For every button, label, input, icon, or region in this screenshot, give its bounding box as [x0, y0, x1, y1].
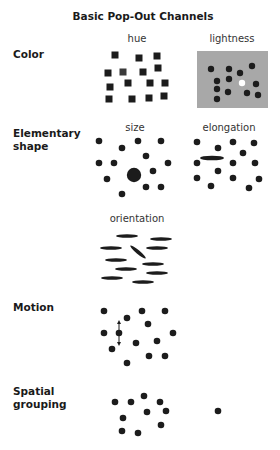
dot-mark — [135, 430, 142, 437]
square-mark — [129, 96, 136, 103]
square-mark — [161, 93, 168, 100]
dot-mark — [146, 353, 153, 360]
square-mark — [146, 95, 153, 102]
bar-mark — [142, 262, 164, 266]
lightness-background — [197, 51, 268, 108]
dot-mark — [214, 86, 220, 92]
dot-mark — [119, 145, 126, 152]
dot-mark — [101, 308, 108, 315]
dot-mark — [194, 175, 201, 182]
dot-mark — [230, 175, 237, 182]
bar-mark — [146, 246, 168, 250]
bar-mark — [116, 234, 138, 238]
motion-panel — [101, 308, 177, 367]
dot-mark — [145, 321, 152, 328]
dot-mark — [170, 330, 177, 337]
dot-mark — [240, 150, 247, 157]
hue-panel — [105, 52, 169, 103]
square-mark — [136, 55, 143, 62]
dot-mark — [154, 338, 161, 345]
dot-mark — [158, 422, 165, 429]
lightness-target-dot — [239, 80, 245, 86]
dot-mark — [139, 308, 146, 315]
dot-mark — [230, 160, 237, 167]
dot-mark — [163, 408, 170, 415]
dot-mark — [124, 360, 131, 367]
dot-mark — [255, 92, 261, 98]
dot-mark — [214, 96, 220, 102]
dot-mark — [158, 138, 165, 145]
dot-mark — [111, 160, 118, 167]
dot-mark — [135, 138, 142, 145]
bar-mark — [146, 271, 168, 275]
dot-mark — [96, 138, 103, 145]
dot-mark — [252, 160, 259, 167]
dot-mark — [215, 145, 222, 152]
elongation-target-ellipse — [200, 156, 224, 161]
dot-mark — [120, 415, 127, 422]
square-mark — [155, 65, 162, 72]
square-mark — [106, 96, 113, 103]
size-panel — [96, 138, 172, 198]
dot-mark — [162, 308, 169, 315]
dot-mark — [128, 399, 135, 406]
dot-mark — [251, 140, 258, 147]
lightness-panel — [197, 51, 268, 108]
dot-mark — [162, 353, 169, 360]
dot-mark — [124, 315, 131, 322]
bar-mark — [101, 276, 123, 280]
square-mark — [162, 80, 169, 87]
dot-mark — [246, 185, 253, 192]
dot-mark — [249, 63, 255, 69]
dot-mark — [101, 330, 108, 337]
bar-mark — [150, 237, 172, 241]
dot-mark — [158, 184, 165, 191]
dot-mark — [96, 160, 103, 167]
dot-mark — [165, 160, 172, 167]
bar-mark — [115, 267, 137, 271]
diagram-canvas — [0, 0, 280, 450]
orientation-target-bar — [129, 244, 147, 260]
dot-mark — [150, 168, 157, 175]
dot-mark — [104, 176, 111, 183]
dot-mark — [230, 139, 237, 146]
dot-mark — [112, 399, 119, 406]
dot-mark — [208, 183, 215, 190]
bar-mark — [105, 258, 127, 262]
square-mark — [125, 80, 132, 87]
arrow-up-icon — [117, 320, 121, 324]
dot-mark — [144, 409, 151, 416]
dot-mark — [225, 89, 231, 95]
elongation-panel — [194, 139, 263, 192]
square-mark — [105, 70, 112, 77]
dot-mark — [194, 139, 201, 146]
dot-mark — [256, 176, 263, 183]
dot-mark — [157, 399, 164, 406]
bar-mark — [100, 246, 122, 250]
square-mark — [154, 53, 161, 60]
dot-mark — [226, 76, 232, 82]
dot-mark — [194, 160, 201, 167]
arrow-down-icon — [117, 342, 121, 346]
dot-mark — [208, 66, 214, 72]
spatial-grouping-panel — [112, 393, 222, 437]
dot-mark — [237, 70, 243, 76]
dot-mark — [119, 191, 126, 198]
size-target-dot — [127, 168, 141, 182]
dot-mark — [109, 346, 116, 353]
bar-mark — [132, 280, 154, 284]
dot-mark — [226, 66, 232, 72]
square-mark — [147, 80, 154, 87]
spatial-outlier-dot — [215, 408, 222, 415]
dot-mark — [141, 393, 148, 400]
dot-mark — [214, 78, 220, 84]
square-mark — [107, 84, 114, 91]
dot-mark — [119, 428, 126, 435]
hue-target-square — [120, 69, 127, 76]
dot-mark — [253, 81, 259, 87]
orientation-panel — [100, 234, 172, 284]
dot-mark — [215, 168, 222, 175]
square-mark — [140, 69, 147, 76]
dot-mark — [143, 184, 150, 191]
dot-mark — [244, 90, 250, 96]
